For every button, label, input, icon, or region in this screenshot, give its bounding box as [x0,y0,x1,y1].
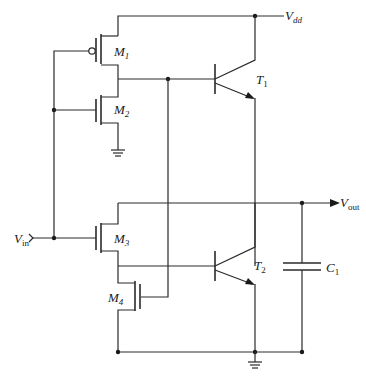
vdd-label: Vdd [285,8,302,25]
vdd-rail: Vdd [118,8,302,36]
vout-output[interactable]: Vout [118,195,360,212]
transistor-m1: M1 [89,34,130,79]
pmos-bubble-icon [89,48,95,54]
m4-gate-feedback-wire [141,79,168,297]
emitter-arrow-icon [245,278,255,285]
ground-icon [111,150,125,156]
m4-label: M4 [107,290,124,307]
t2-label: T2 [254,258,266,275]
vout-label: Vout [340,195,360,212]
transistor-m4: M4 [107,266,140,352]
ground-rail [116,350,304,362]
transistor-m2: M2 [52,79,130,150]
t1-label: T1 [256,72,268,89]
vin-junction-dot [52,236,56,240]
capacitor-c1: C1 [283,203,339,352]
transistor-t2: T2 [215,203,266,352]
output-arrow-icon [330,199,340,207]
m3-label: M3 [113,231,130,248]
vin-label: Vin [14,231,29,248]
vin-input[interactable]: Vin [14,231,96,248]
gate-bus-left [54,51,89,238]
c1-label: C1 [326,260,339,277]
bicmos-schematic: Vdd M1 M2 T1 [0,0,366,383]
transistor-t1: T1 [215,16,268,266]
transistor-m3: M3 [96,203,130,266]
m1-label: M1 [113,44,129,61]
m2-label: M2 [113,102,130,119]
emitter-arrow-icon [245,92,255,99]
ground-icon [248,362,262,368]
